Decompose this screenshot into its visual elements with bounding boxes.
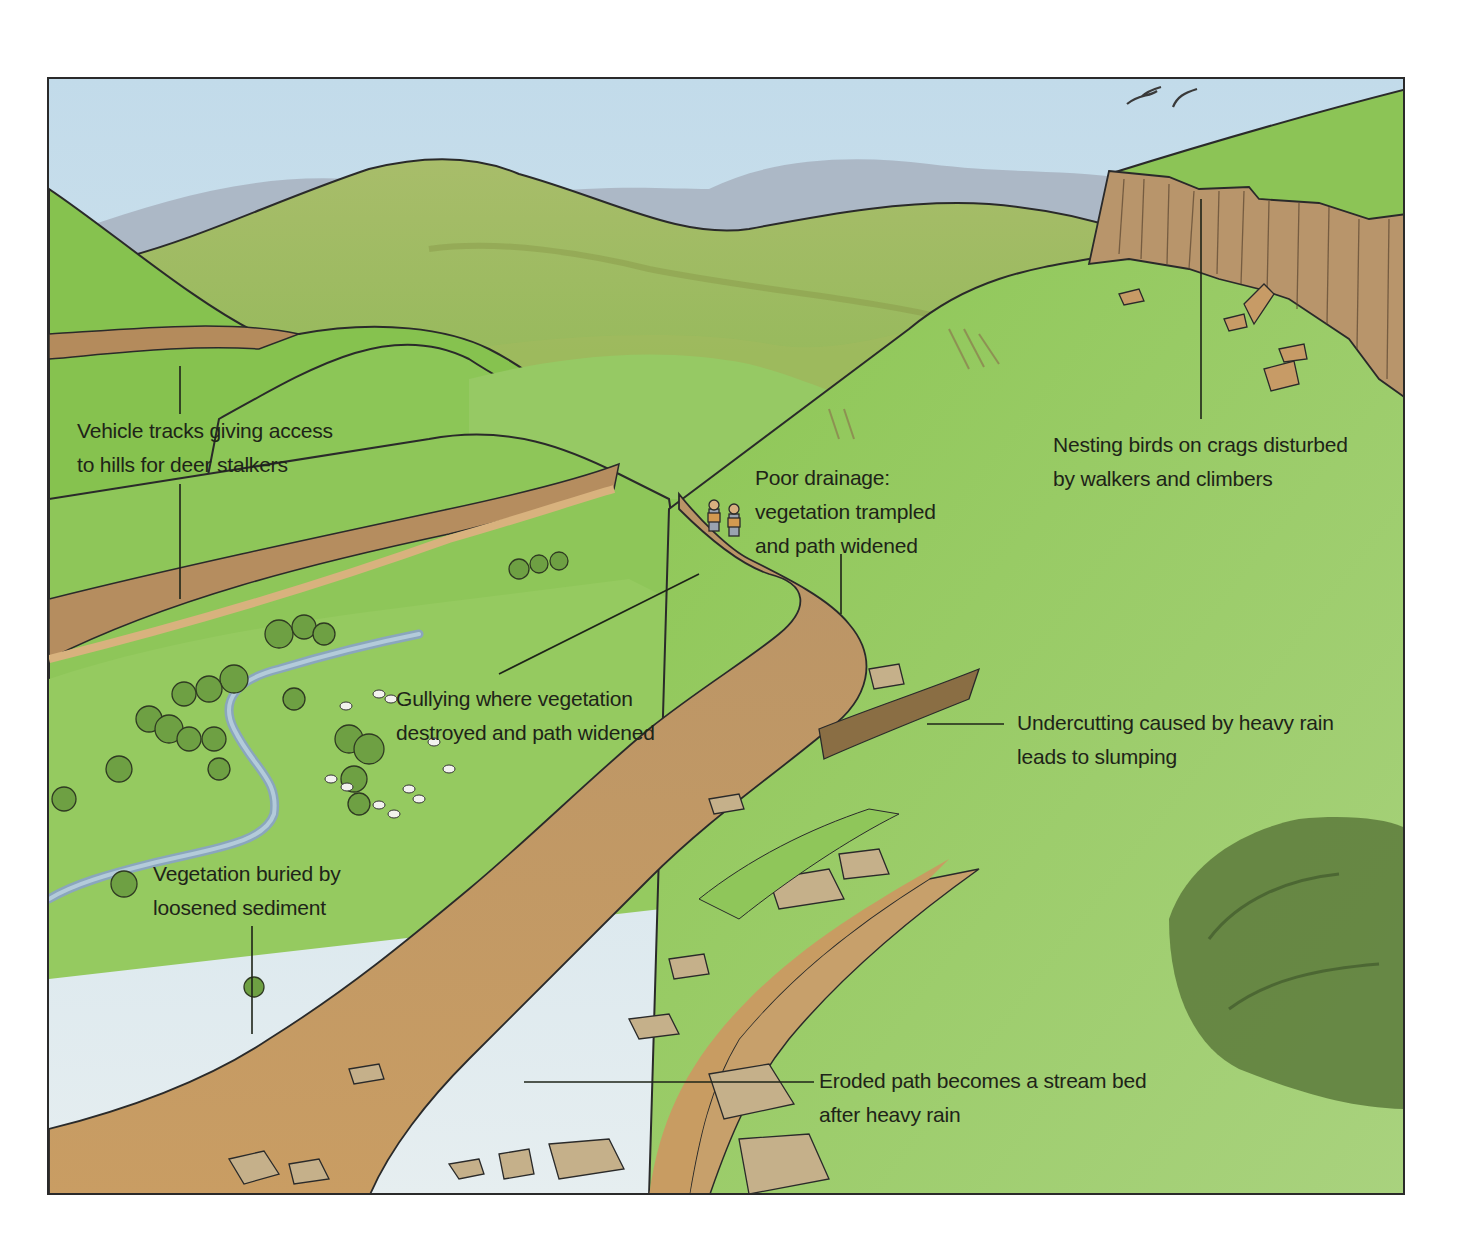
- label-gullying: Gullying where vegetation destroyed and …: [396, 682, 655, 750]
- landscape-illustration: [49, 79, 1405, 1195]
- label-poor-drainage: Poor drainage: vegetation trampled and p…: [755, 461, 936, 563]
- label-vehicle-tracks: Vehicle tracks giving access to hills fo…: [77, 414, 333, 482]
- label-eroded-path: Eroded path becomes a stream bed after h…: [819, 1064, 1146, 1132]
- label-vegetation-buried: Vegetation buried by loosened sediment: [153, 857, 340, 925]
- label-nesting-birds: Nesting birds on crags disturbed by walk…: [1053, 428, 1348, 496]
- label-undercutting: Undercutting caused by heavy rain leads …: [1017, 706, 1334, 774]
- illustration-frame: Vehicle tracks giving access to hills fo…: [47, 77, 1405, 1195]
